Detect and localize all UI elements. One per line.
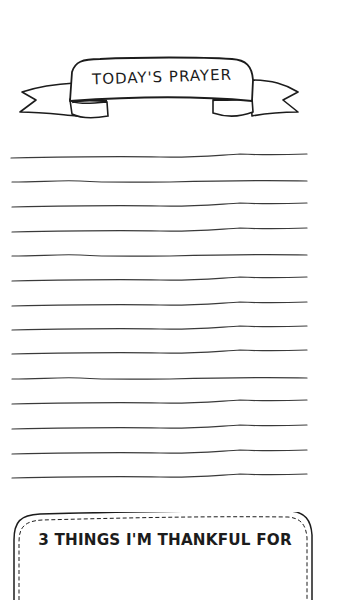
writing-line bbox=[12, 277, 307, 281]
writing-line bbox=[12, 474, 307, 478]
thankful-box bbox=[13, 512, 313, 602]
writing-line bbox=[12, 203, 307, 207]
writing-line bbox=[12, 228, 307, 232]
writing-line bbox=[12, 302, 307, 306]
writing-line bbox=[12, 350, 307, 354]
writing-line bbox=[12, 400, 307, 404]
writing-line bbox=[11, 154, 307, 158]
thankful-box-title: 3 THINGS I'M THANKFUL FOR bbox=[37, 530, 294, 549]
writing-line bbox=[12, 378, 307, 380]
writing-line bbox=[12, 255, 307, 257]
writing-line bbox=[12, 425, 307, 429]
writing-line bbox=[12, 326, 307, 330]
writing-line bbox=[12, 450, 307, 454]
writing-line bbox=[12, 181, 307, 183]
